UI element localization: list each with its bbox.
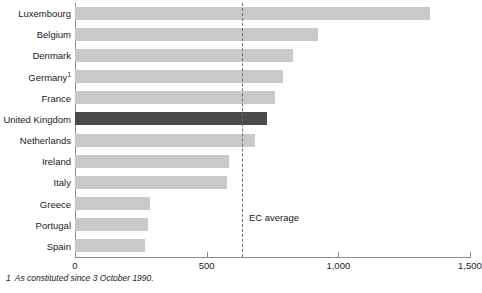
- x-tick-label: 1,500: [458, 260, 482, 271]
- bar-united-kingdom[interactable]: [75, 112, 267, 125]
- category-label-denmark: Denmark: [0, 45, 71, 66]
- bar-row: [75, 88, 470, 109]
- footnote-text: As constituted since 3 October 1990.: [15, 273, 154, 283]
- bar-belgium[interactable]: [75, 28, 318, 41]
- category-label-italy: Italy: [0, 172, 71, 193]
- x-tick-label: 1,000: [326, 260, 350, 271]
- x-tick-mark: [470, 252, 471, 258]
- bar-france[interactable]: [75, 91, 275, 104]
- bar-row: [75, 67, 470, 88]
- bar-row: [75, 130, 470, 151]
- bar-row: [75, 3, 470, 24]
- category-label-portugal: Portugal: [0, 215, 71, 236]
- ec-average-line: [242, 3, 243, 257]
- category-label-luxembourg: Luxembourg: [0, 3, 71, 24]
- category-label-greece: Greece: [0, 194, 71, 215]
- bar-denmark[interactable]: [75, 49, 293, 62]
- x-tick-label: 0: [72, 260, 77, 271]
- bar-row: [75, 24, 470, 45]
- bar-spain[interactable]: [75, 239, 145, 252]
- x-tick-mark: [75, 252, 76, 258]
- category-label-united-kingdom: United Kingdom: [0, 109, 71, 130]
- category-label-belgium: Belgium: [0, 24, 71, 45]
- bar-italy[interactable]: [75, 176, 227, 189]
- bar-row: [75, 109, 470, 130]
- category-axis-labels: LuxembourgBelgiumDenmarkGermany1FranceUn…: [0, 3, 71, 257]
- category-label-spain: Spain: [0, 236, 71, 257]
- ec-average-label: EC average: [249, 212, 299, 223]
- bar-row: [75, 236, 470, 257]
- footnote-number: 1: [6, 273, 11, 283]
- bar-row: [75, 45, 470, 66]
- bar-ireland[interactable]: [75, 155, 229, 168]
- x-tick-mark: [207, 252, 208, 258]
- bar-portugal[interactable]: [75, 218, 148, 231]
- bar-row: [75, 151, 470, 172]
- category-label-germany: Germany1: [0, 67, 71, 88]
- x-axis-line: [75, 257, 471, 258]
- bar-germany[interactable]: [75, 70, 283, 83]
- bar-greece[interactable]: [75, 197, 150, 210]
- category-label-france: France: [0, 88, 71, 109]
- x-tick-label: 500: [199, 260, 215, 271]
- footnote: 1As constituted since 3 October 1990.: [6, 273, 154, 283]
- bar-row: [75, 172, 470, 193]
- footnote-marker: 1: [67, 70, 71, 77]
- bar-netherlands[interactable]: [75, 134, 255, 147]
- category-label-ireland: Ireland: [0, 151, 71, 172]
- x-tick-mark: [338, 252, 339, 258]
- bar-luxembourg[interactable]: [75, 7, 430, 20]
- category-label-netherlands: Netherlands: [0, 130, 71, 151]
